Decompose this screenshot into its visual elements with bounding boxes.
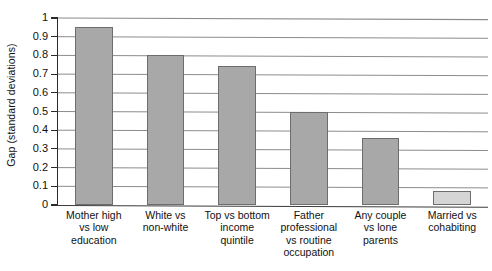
gridline: [58, 18, 488, 20]
bar: [218, 66, 256, 205]
x-axis-category-label-line: professional: [273, 221, 345, 233]
bar: [362, 138, 400, 205]
x-axis-category-label-line: vs routine: [273, 234, 345, 246]
y-axis-tick-label: 0.5: [0, 106, 48, 117]
bar-chart-figure: Gap (standard deviations) 10.90.80.70.60…: [0, 0, 492, 271]
gridline: [58, 168, 488, 170]
x-axis-category-label-line: parents: [345, 234, 417, 246]
x-axis-category-label: Top vs bottomincomequintile: [201, 209, 273, 246]
x-axis-category-label-line: vs lone: [345, 221, 417, 233]
gridline: [58, 112, 488, 114]
y-axis-tick-label: 0.8: [0, 49, 48, 60]
x-axis-category-label-line: quintile: [201, 234, 273, 246]
x-axis-category-labels: Mother highvs loweducationWhite vsnon-wh…: [58, 209, 488, 269]
x-axis-category-label-line: Married vs: [416, 209, 488, 221]
gridlines: [58, 18, 488, 205]
y-axis-tick-label: 0.4: [0, 124, 48, 135]
x-axis-category-label: Fatherprofessionalvs routineoccupation: [273, 209, 345, 259]
y-axis-tick-label: 1: [0, 12, 48, 23]
gridline: [58, 93, 488, 95]
x-axis-category-label-line: White vs: [130, 209, 202, 221]
y-axis-tick-label: 0.9: [0, 31, 48, 42]
y-axis-tick-label: 0.2: [0, 162, 48, 173]
y-axis-ticks: 10.90.80.70.60.50.40.30.20.10: [0, 0, 58, 271]
x-axis-category-label: White vsnon-white: [130, 209, 202, 234]
y-axis-tick-label: 0.3: [0, 143, 48, 154]
x-axis-category-label: Any couplevs loneparents: [345, 209, 417, 246]
x-axis-category-label-line: non-white: [130, 221, 202, 233]
gridline: [58, 130, 488, 132]
y-axis-tick-label: 0.6: [0, 87, 48, 98]
plot-area: [58, 18, 488, 205]
y-axis-tick-label: 0: [0, 199, 48, 210]
x-axis-category-label-line: income: [201, 221, 273, 233]
gridline: [58, 55, 488, 57]
x-axis-category-label-line: Top vs bottom: [201, 209, 273, 221]
x-axis-category-label: Mother highvs loweducation: [58, 209, 130, 246]
gridline: [58, 37, 488, 39]
gridline: [58, 74, 488, 76]
x-axis-category-label-line: cohabiting: [416, 221, 488, 233]
x-axis-category-label-line: vs low: [58, 221, 130, 233]
x-axis-category-label-line: Any couple: [345, 209, 417, 221]
x-axis-category-label-line: Father: [273, 209, 345, 221]
bar: [75, 27, 113, 205]
x-axis-category-label: Married vscohabiting: [416, 209, 488, 234]
bar: [147, 55, 185, 205]
x-axis-category-label-line: Mother high: [58, 209, 130, 221]
x-axis-category-label-line: education: [58, 234, 130, 246]
gridline: [58, 149, 488, 151]
bar: [290, 112, 328, 206]
x-axis-category-label-line: occupation: [273, 246, 345, 258]
gridline: [58, 186, 488, 188]
y-axis-tick-label: 0.7: [0, 68, 48, 79]
y-axis-tick-label: 0.1: [0, 180, 48, 191]
bar: [433, 191, 471, 205]
